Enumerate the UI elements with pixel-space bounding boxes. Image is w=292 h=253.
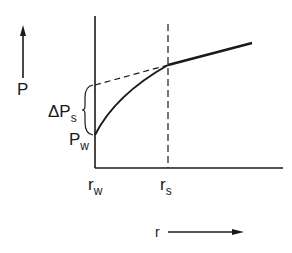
p-direction-arrow xyxy=(20,25,26,78)
pressure-profile-diagram xyxy=(0,0,292,253)
skin-zone-curve xyxy=(95,65,168,135)
rs-sub: s xyxy=(166,184,172,198)
rs-main: r xyxy=(160,175,166,194)
rw-main: r xyxy=(88,175,94,194)
rw-sub: w xyxy=(94,184,103,198)
pw-sub: w xyxy=(80,139,89,153)
pw-main: P xyxy=(69,130,80,149)
r-direction-arrow xyxy=(168,229,244,235)
outer-zone-line xyxy=(168,43,252,65)
rw-label: rw xyxy=(88,176,102,193)
pw-label: Pw xyxy=(69,131,89,148)
delta-ps-label: ΔPs xyxy=(48,103,77,120)
x-axis-label: r xyxy=(155,225,160,239)
extrapolation-dashed-line xyxy=(95,65,168,85)
rs-label: rs xyxy=(160,176,172,193)
delta-ps-brace xyxy=(82,85,93,135)
delta-ps-main: ΔP xyxy=(48,102,71,121)
delta-ps-sub: s xyxy=(71,111,77,125)
y-axis-label: P xyxy=(17,81,28,98)
